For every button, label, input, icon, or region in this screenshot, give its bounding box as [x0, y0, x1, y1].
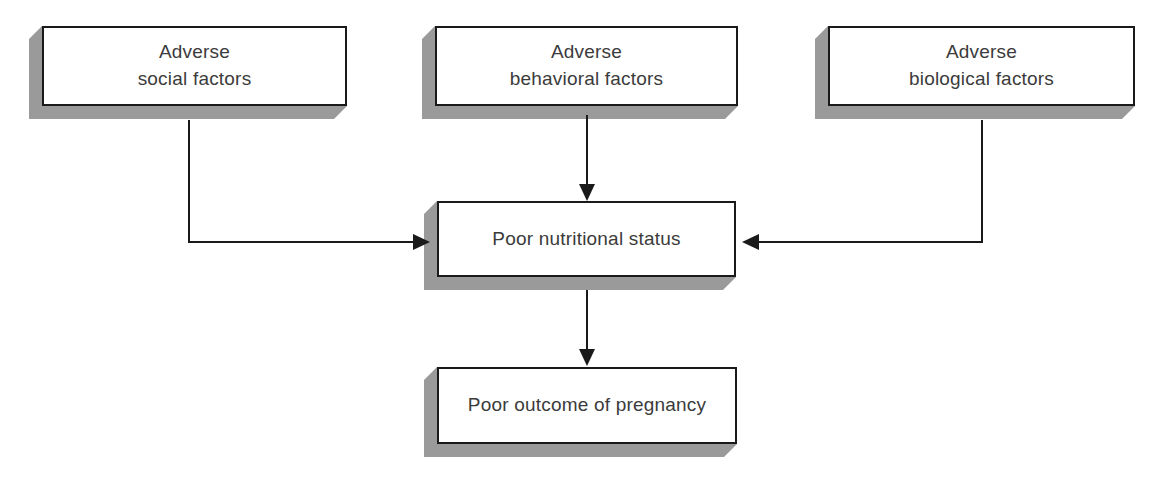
node-frame: Poor outcome of pregnancy: [437, 367, 737, 444]
node-poor-outcome-of-pregnancy[interactable]: Poor outcome of pregnancy: [424, 367, 737, 457]
arrowhead-right-icon: [413, 234, 430, 250]
arrowhead-left-icon: [742, 234, 759, 250]
edge-segment-horizontal: [758, 241, 983, 243]
node-frame: Adverse behavioral factors: [435, 26, 738, 106]
node-adverse-biological-factors[interactable]: Adverse biological factors: [815, 26, 1135, 119]
node-frame: Adverse social factors: [42, 26, 347, 106]
node-poor-nutritional-status[interactable]: Poor nutritional status: [424, 201, 736, 290]
node-frame: Adverse biological factors: [828, 26, 1135, 106]
edge-segment-vertical: [586, 115, 588, 187]
arrowhead-down-icon: [579, 184, 595, 201]
node-frame: Poor nutritional status: [437, 201, 736, 277]
edge-segment-vertical: [188, 120, 190, 243]
node-adverse-social-factors[interactable]: Adverse social factors: [29, 26, 347, 119]
node-label: Poor outcome of pregnancy: [468, 392, 706, 419]
arrowhead-down-icon: [579, 349, 595, 366]
edge-segment-vertical: [586, 290, 588, 352]
node-adverse-behavioral-factors[interactable]: Adverse behavioral factors: [422, 26, 738, 119]
node-label: Adverse social factors: [138, 39, 252, 93]
edge-segment-vertical: [981, 120, 983, 243]
node-label: Adverse behavioral factors: [510, 39, 664, 93]
node-label: Adverse biological factors: [909, 39, 1054, 93]
node-label: Poor nutritional status: [492, 226, 680, 253]
edge-segment-horizontal: [188, 241, 418, 243]
flowchart-canvas: Adverse social factors Adverse behaviora…: [0, 0, 1156, 477]
